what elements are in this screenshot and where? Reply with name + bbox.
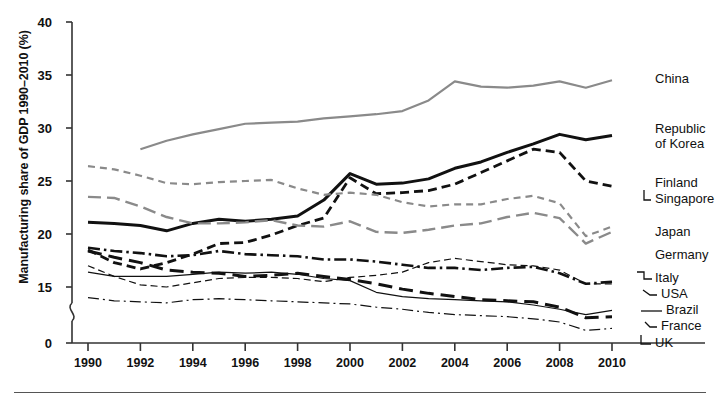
chart-figure: Manufacturing share of GDP 1990–2010 (%)… bbox=[0, 0, 721, 416]
series-label-uk: UK bbox=[655, 336, 673, 351]
series-label-italy: Italy bbox=[655, 271, 679, 286]
series-line-japan bbox=[88, 197, 612, 244]
series-label-republic-of-korea-1: Republic bbox=[655, 122, 706, 137]
series-line-finland-singapore bbox=[88, 149, 612, 269]
series-line-china bbox=[140, 80, 612, 149]
leader-usa bbox=[643, 290, 657, 295]
bottom-rule bbox=[14, 392, 706, 393]
series-label-singapore: Singapore bbox=[655, 192, 714, 207]
series-label-finland: Finland bbox=[655, 176, 698, 191]
series-label-usa: USA bbox=[661, 287, 688, 302]
plot-area bbox=[0, 0, 721, 416]
y-axis-break bbox=[70, 303, 74, 321]
series-label-germany: Germany bbox=[655, 248, 708, 263]
series-line-france bbox=[88, 251, 612, 318]
series-label-france: France bbox=[661, 319, 701, 334]
series-label-brazil: Brazil bbox=[666, 303, 699, 318]
series-label-china: China bbox=[655, 72, 689, 87]
leader-italy bbox=[637, 272, 652, 279]
series-label-japan: Japan bbox=[655, 225, 690, 240]
leader-france bbox=[645, 322, 657, 327]
series-label-republic-of-korea-2: of Korea bbox=[655, 137, 704, 152]
series-line-brazil bbox=[88, 258, 612, 287]
leader-singapore bbox=[644, 190, 651, 200]
